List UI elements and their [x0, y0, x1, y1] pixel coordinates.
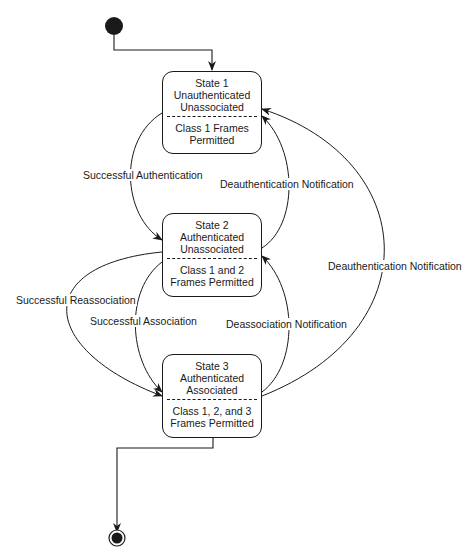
state-3-divider [167, 399, 257, 400]
state-3-frames-line1: Class 1, 2, and 3 [163, 405, 261, 417]
arrow-successful-association [135, 262, 162, 392]
state-2-divider [167, 258, 257, 259]
state-2-frames-line1: Class 1 and 2 [163, 264, 261, 276]
state-1-frames-line2: Permitted [163, 134, 261, 146]
label-successful-reassociation: Successful Reassociation [15, 294, 137, 306]
state-3-frames-line2: Frames Permitted [163, 417, 261, 429]
initial-state-node [105, 17, 123, 35]
arrow-deauthentication-notification-3to1 [262, 109, 384, 396]
label-deauthentication-notification-3to1: Deauthentication Notification [327, 260, 463, 272]
state-1-assoc: Unassociated [163, 101, 261, 113]
state-1-box: State 1 Unauthenticated Unassociated Cla… [162, 71, 262, 154]
state-2-frames-line2: Frames Permitted [163, 276, 261, 288]
state-2-auth: Authenticated [163, 231, 261, 243]
state-3-box: State 3 Authenticated Associated Class 1… [162, 354, 262, 438]
final-state-node-core [112, 533, 123, 544]
label-successful-authentication: Successful Authentication [82, 169, 204, 181]
state-1-divider [167, 116, 257, 117]
state-3-assoc: Associated [163, 384, 261, 396]
final-transition-arrow [117, 437, 213, 532]
state-1-frames-line1: Class 1 Frames [163, 122, 261, 134]
state-1-auth: Unauthenticated [163, 89, 261, 101]
state-2-assoc: Unassociated [163, 243, 261, 255]
initial-transition-arrow [114, 35, 212, 70]
state-3-title: State 3 [163, 360, 261, 372]
state-3-auth: Authenticated [163, 372, 261, 384]
label-deassociation-notification: Deassociation Notification [225, 318, 348, 330]
state-2-title: State 2 [163, 219, 261, 231]
state-2-box: State 2 Authenticated Unassociated Class… [162, 213, 262, 297]
label-successful-association: Successful Association [89, 315, 198, 327]
state-1-title: State 1 [163, 77, 261, 89]
label-deauthentication-notification-2to1: Deauthentication Notification [219, 178, 355, 190]
